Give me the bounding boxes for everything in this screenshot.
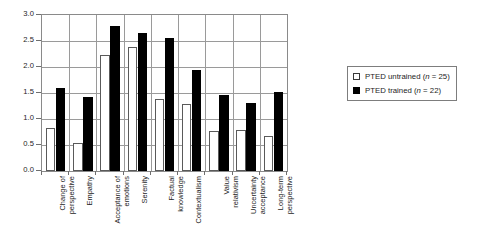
bar-untrained [46,128,56,171]
x-axis-category-label-line: knowledge [177,176,186,212]
x-axis-category-label: Factualknowledge [168,176,185,212]
x-axis-tick-mark [177,171,178,175]
x-axis-category-label-line: Contextualism [195,176,204,223]
bar-untrained [73,143,83,171]
plot-area [41,14,288,172]
x-axis-category-label: Uncertaintyacceptance [250,176,267,214]
x-axis-category-label: Acceptance ofemotions [114,176,131,224]
bar-trained [56,88,66,171]
x-axis-category-label: Empathy [86,176,95,206]
bar-untrained [100,55,110,171]
x-axis-tick-marks [41,171,288,175]
legend: PTED untrained (n = 25) PTED trained (n … [347,66,457,101]
bar-untrained [128,47,138,171]
y-axis-tick-labels: 3.02.52.01.51.00.50.0 [8,0,34,234]
x-axis-category-label: Valuerelativism [223,176,240,208]
legend-swatch-untrained [353,73,360,80]
x-axis-category-label-line: Empathy [86,176,95,206]
bar-trained [219,95,229,171]
legend-swatch-trained [353,87,360,94]
x-axis-tick-mark [259,171,260,175]
x-axis-tick-mark [232,171,233,175]
x-axis-category-labels: Change ofperspectiveEmpathyAcceptance of… [41,176,288,234]
x-axis-category-label: Contextualism [195,176,204,223]
x-axis-tick-mark [95,171,96,175]
x-axis-category-label-line: emotions [122,176,131,224]
bar-untrained [155,99,165,171]
x-axis-tick-mark [286,171,287,175]
x-axis-category-label-line: Acceptance of [114,176,123,224]
bar-trained [192,70,202,171]
x-axis-tick-mark [68,171,69,175]
y-axis-tick-label: 2.5 [23,36,34,44]
x-axis-category-label-line: relativism [231,176,240,208]
x-axis-category-label-line: perspective [286,176,295,214]
x-axis-category-label-line: perspective [68,176,77,214]
bar-group-container [42,15,287,171]
x-axis-category-label: Serenity [141,176,150,204]
bar-untrained [182,104,192,171]
bar-trained [246,103,256,171]
bar-untrained [236,130,246,171]
legend-label-trained: PTED trained (n = 22) [365,87,441,95]
bar-trained [83,97,93,171]
y-axis-tick-label: 0.5 [23,140,34,148]
bar-trained [274,92,284,171]
x-axis-tick-mark [204,171,205,175]
x-axis-tick-mark [150,171,151,175]
bar-trained [138,33,148,171]
bar-chart-figure: 3.02.52.01.51.00.50.0 Change ofperspecti… [0,0,477,234]
y-axis-tick-label: 3.0 [23,10,34,18]
x-axis-category-label: Long-termperspective [277,176,294,214]
bar-untrained [264,136,274,171]
x-axis-category-label-line: Value [223,176,232,208]
x-axis-category-label-line: Serenity [141,176,150,204]
bar-untrained [209,131,219,171]
bar-trained [110,26,120,171]
x-axis-category-label: Change ofperspective [59,176,76,214]
legend-label-untrained: PTED untrained (n = 25) [365,73,450,81]
y-axis-tick-label: 1.5 [23,88,34,96]
legend-item-trained: PTED trained (n = 22) [353,85,450,96]
legend-item-untrained: PTED untrained (n = 25) [353,71,450,82]
x-axis-tick-mark [123,171,124,175]
x-axis-category-label-line: acceptance [258,176,267,214]
bar-trained [165,38,175,171]
x-axis-tick-mark [41,171,42,175]
y-axis-tick-label: 1.0 [23,114,34,122]
y-axis-tick-label: 2.0 [23,62,34,70]
y-axis-tick-label: 0.0 [23,166,34,174]
